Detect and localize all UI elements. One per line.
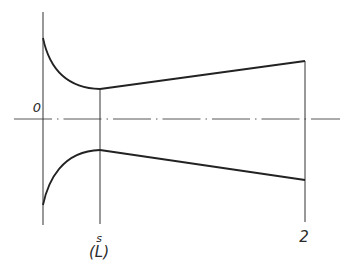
lower-convergent-wall: [43, 150, 100, 205]
nozzle-diagram: 0 s (L) 2: [0, 0, 340, 278]
origin-label: 0: [33, 101, 41, 114]
upper-divergent-wall: [100, 61, 305, 89]
upper-convergent-wall: [43, 38, 100, 89]
lower-divergent-wall: [100, 150, 305, 180]
diagram-drawing: [0, 0, 340, 278]
throat-sublabel: (L): [89, 245, 109, 260]
exit-label: 2: [299, 230, 309, 245]
